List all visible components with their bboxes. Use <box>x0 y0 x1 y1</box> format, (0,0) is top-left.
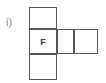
net-cell-middle-left <box>29 29 57 54</box>
net-cell-middle-right <box>74 29 98 54</box>
cube-net-figure: i) F <box>0 0 106 83</box>
net-cell-top <box>29 7 57 29</box>
net-cell-bottom <box>29 54 57 80</box>
item-label: i) <box>6 14 22 30</box>
net-cell-middle-center <box>57 29 74 54</box>
